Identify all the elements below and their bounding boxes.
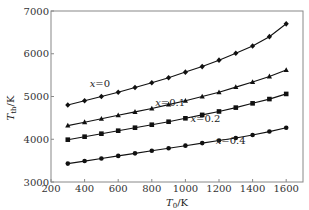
x-tick-label: 1000	[173, 183, 198, 194]
x-tick-label: 600	[109, 183, 128, 194]
data-point	[166, 75, 171, 81]
y-tick-label: 3000	[24, 177, 49, 188]
data-point	[250, 43, 255, 49]
data-point	[133, 151, 138, 156]
x-tick-label: 400	[75, 183, 94, 194]
data-point	[65, 102, 70, 108]
x-tick-label: 1600	[273, 183, 298, 194]
series-x-0	[65, 21, 289, 108]
data-point	[166, 119, 171, 124]
data-point	[66, 161, 71, 166]
data-point	[116, 154, 121, 159]
data-point	[234, 105, 239, 110]
series-annotation: x=0.1	[155, 97, 185, 108]
data-point	[132, 85, 137, 91]
data-point	[82, 159, 87, 164]
data-point	[284, 92, 289, 97]
data-point	[200, 141, 205, 146]
data-point	[200, 64, 205, 70]
x-tick-label: 1200	[206, 183, 231, 194]
data-point	[284, 125, 289, 130]
data-point	[99, 94, 104, 100]
y-tick-label: 4000	[24, 134, 49, 145]
data-point	[149, 80, 154, 86]
data-point	[233, 51, 238, 57]
data-point	[267, 97, 272, 102]
y-tick-label: 6000	[24, 48, 49, 59]
data-point	[166, 146, 171, 151]
annotations: x=0x=0.1x=0.2x=0.4	[90, 78, 246, 146]
line-chart: x=0x=0.1x=0.2x=0.4 200400600800100012001…	[0, 0, 309, 210]
y-tick-label: 7000	[24, 6, 49, 17]
series-annotation: x=0.4	[216, 135, 246, 146]
data-point	[250, 101, 255, 106]
data-point	[99, 156, 104, 161]
data-point	[216, 57, 221, 63]
series-annotation: x=0	[90, 78, 110, 89]
data-point	[284, 67, 289, 72]
y-tick-label: 5000	[24, 91, 49, 102]
series-x-0-4	[66, 125, 289, 166]
y-axis-label: Tth/K	[5, 95, 18, 120]
data-point	[99, 131, 104, 136]
data-point	[250, 133, 255, 138]
data-point	[116, 128, 121, 133]
x-axis-label: T0/K	[166, 197, 189, 210]
x-tick-label: 800	[142, 183, 161, 194]
data-point	[82, 134, 87, 139]
series-layer	[65, 21, 289, 166]
data-point	[183, 69, 188, 75]
data-point	[150, 122, 155, 127]
data-point	[66, 137, 71, 142]
data-point	[133, 125, 138, 130]
data-point	[267, 129, 272, 134]
data-point	[183, 116, 188, 121]
data-point	[116, 89, 121, 95]
data-point	[150, 148, 155, 153]
x-tick-label: 1400	[240, 183, 265, 194]
series-annotation: x=0.2	[190, 113, 220, 124]
data-point	[183, 143, 188, 148]
data-point	[82, 98, 87, 104]
